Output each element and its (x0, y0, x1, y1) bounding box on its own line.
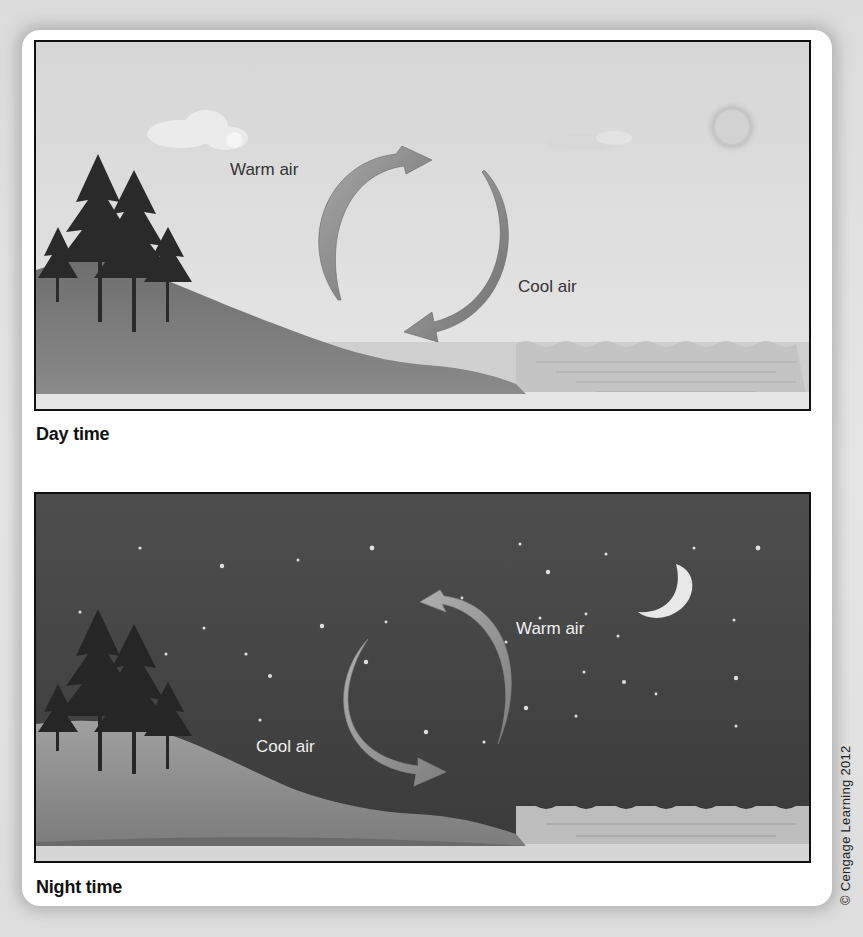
day-caption: Day time (36, 424, 109, 445)
day-panel: Warm air Cool air (34, 40, 811, 411)
day-illustration: Warm air Cool air (36, 42, 809, 409)
day-warm-air-label: Warm air (230, 160, 299, 179)
night-panel: Warm air Cool air (34, 492, 811, 863)
sun-icon (704, 99, 760, 155)
copyright-notice: © Cengage Learning 2012 (838, 745, 853, 905)
night-illustration: Warm air Cool air (36, 494, 809, 861)
night-cool-air-label: Cool air (256, 737, 315, 756)
night-warm-air-label: Warm air (516, 619, 585, 638)
night-caption: Night time (36, 877, 122, 898)
day-cool-air-label: Cool air (518, 277, 577, 296)
